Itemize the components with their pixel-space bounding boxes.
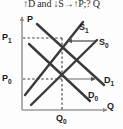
supply-demand-figure: ↑D and ↓S→↑P;? Q xyxy=(0,0,123,129)
y-axis-label: P xyxy=(27,14,33,24)
x-tick-q0: Q0 xyxy=(56,113,67,125)
curve-label-s1: S1 xyxy=(79,22,89,34)
diagram-canvas xyxy=(0,0,123,129)
supply-curves xyxy=(25,22,97,105)
y-tick-p1: P1 xyxy=(2,32,12,44)
y-tick-p0: P0 xyxy=(2,73,12,85)
x-axis-label: Q xyxy=(107,101,114,111)
curve-d1 xyxy=(37,24,104,85)
curve-label-d0: D0 xyxy=(88,90,98,102)
curve-label-s0: S0 xyxy=(99,37,109,49)
curve-label-d1: D1 xyxy=(104,75,114,87)
